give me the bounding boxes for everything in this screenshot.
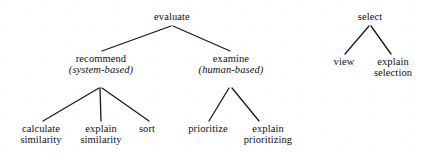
tree-node-prioritize: prioritize [188, 124, 227, 135]
node-label: prioritize [188, 124, 227, 135]
tree-node-explain-selection: explainselection [374, 57, 412, 78]
node-label: sort [139, 124, 155, 135]
tree-node-sort: sort [139, 124, 155, 135]
tree-node-calculate-similarity: calculatesimilarity [20, 124, 61, 145]
tree-edge [209, 88, 229, 121]
node-label: evaluate [154, 12, 190, 23]
tree-edge [173, 26, 230, 51]
tree-node-select: select [358, 12, 383, 23]
node-label: select [358, 12, 383, 23]
tree-node-recommend: recommend(system-based) [69, 54, 133, 75]
tree-edge [100, 88, 101, 121]
node-label-line2: prioritizing [244, 135, 292, 146]
tree-edge [232, 88, 259, 121]
node-sublabel: (human-based) [199, 65, 264, 76]
node-label-line2: selection [374, 68, 412, 79]
node-sublabel: (system-based) [69, 65, 133, 76]
node-label: view [334, 57, 355, 68]
tree-edge [43, 88, 99, 121]
tree-node-explain-prioritizing: explainprioritizing [244, 124, 292, 145]
tree-edge [345, 26, 369, 54]
tree-edge [102, 88, 149, 121]
node-label-line2: similarity [20, 135, 61, 146]
tree-edge [371, 26, 391, 54]
tree-node-explain-similarity: explainsimilarity [80, 124, 121, 145]
tree-node-evaluate: evaluate [154, 12, 190, 23]
node-label-line2: similarity [80, 135, 121, 146]
tree-node-view: view [334, 57, 355, 68]
tree-node-examine: examine(human-based) [199, 54, 264, 75]
tree-edge [102, 26, 171, 51]
task-hierarchy-diagram: evaluaterecommend(system-based)examine(h… [0, 0, 432, 157]
